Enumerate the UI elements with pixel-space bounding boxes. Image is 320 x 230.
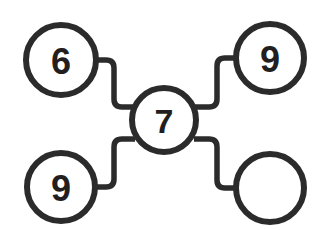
node-bottom-right[interactable] [236, 154, 304, 222]
node-bottom-left[interactable]: 9 [27, 153, 95, 221]
node-bottom-left-label: 9 [51, 168, 71, 209]
node-center-label: 7 [155, 102, 174, 140]
node-top-right[interactable]: 9 [236, 24, 304, 92]
node-link-diagram: 6 9 9 7 [0, 0, 320, 230]
connector-bottom-left-to-center [94, 139, 135, 187]
node-top-left-label: 6 [51, 41, 71, 82]
node-top-left[interactable]: 6 [26, 25, 96, 95]
connector-top-left-to-center [94, 60, 135, 107]
node-center[interactable]: 7 [132, 88, 196, 152]
connector-top-right-to-center [194, 58, 237, 107]
connector-bottom-right-to-center [194, 139, 237, 188]
node-top-right-label: 9 [260, 39, 280, 80]
diagram-canvas: 6 9 9 7 [0, 0, 320, 230]
node-bottom-right-circle[interactable] [236, 154, 304, 222]
